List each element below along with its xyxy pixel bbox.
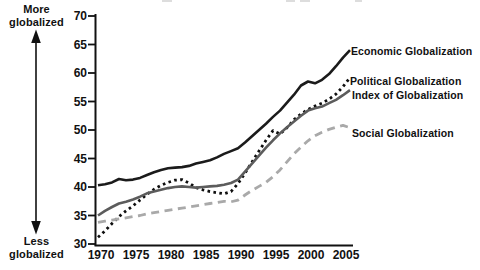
legend-label-political-globalization: Political Globalization <box>350 75 461 87</box>
legend-label-index-of-globalization: Index of Globalization <box>352 89 463 101</box>
less-globalized-label: Less globalized <box>0 235 73 260</box>
legend-label-economic-globalization: Economic Globalization <box>351 45 472 57</box>
globalization-trends-figure: 3035404550556065701970197519801985199019… <box>0 0 480 270</box>
arrow-head-down <box>31 221 41 235</box>
legend-label-social-globalization: Social Globalization <box>352 127 454 139</box>
more-globalized-label: More globalized <box>0 3 73 28</box>
arrow-head-up <box>31 30 41 44</box>
